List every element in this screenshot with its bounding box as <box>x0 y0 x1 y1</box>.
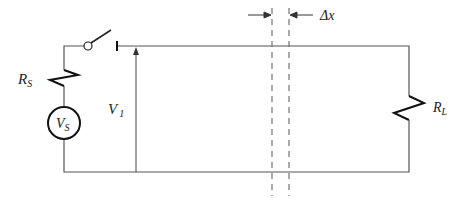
wire-left-bottom <box>64 126 409 172</box>
delta-x-arrows-icon <box>248 12 313 18</box>
v1-label: V1 <box>108 101 124 119</box>
wire-top <box>117 46 409 96</box>
v1-arrow-icon <box>133 47 139 172</box>
rs-label: RS <box>17 71 32 89</box>
switch-icon <box>84 30 111 50</box>
wire-left-top <box>64 46 88 70</box>
resistor-rs-icon <box>50 70 78 86</box>
rl-label: RL <box>432 100 448 117</box>
resistor-rl-icon <box>394 96 424 120</box>
circuit-diagram: RS VS V1 Δx RL <box>0 0 471 200</box>
segment-markers <box>272 8 289 196</box>
delta-x-label: Δx <box>319 8 335 23</box>
